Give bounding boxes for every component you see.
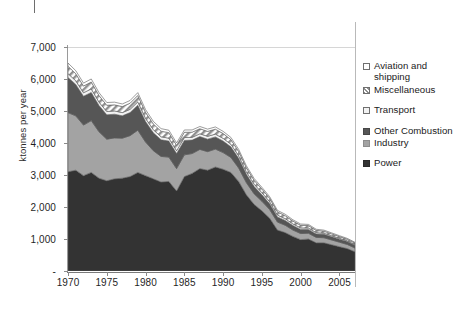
y-axis-tick-mark [64, 207, 68, 208]
x-axis-tick-label: 1985 [173, 277, 196, 288]
x-axis-tick-label: 1970 [57, 277, 80, 288]
legend-divider [355, 22, 356, 287]
gridline [68, 47, 355, 48]
x-axis-tick-mark [339, 272, 340, 276]
x-axis-tick-mark [184, 272, 185, 276]
legend-label: Power [374, 157, 401, 168]
y-axis-tick-mark [64, 111, 68, 112]
x-axis-tick-label: 1975 [95, 277, 118, 288]
x-axis-tick-label: 1980 [134, 277, 157, 288]
legend-label: Other Combustion [374, 125, 453, 136]
y-axis-tick-label: 3,000 [8, 170, 56, 181]
y-axis-tick-mark [64, 79, 68, 80]
x-axis-tick-mark [68, 272, 69, 276]
y-axis-tick-label: 4,000 [8, 138, 56, 149]
x-axis-tick-mark [146, 272, 147, 276]
y-axis-tick-mark [64, 175, 68, 176]
y-axis-tick-label: 2,000 [8, 202, 56, 213]
legend-item[interactable]: Industry [363, 137, 457, 148]
legend-swatch-miscellaneous [363, 87, 370, 94]
legend-label: Miscellaneous [374, 84, 435, 95]
y-axis-tick-label: - [8, 266, 56, 277]
legend-swatch-other [363, 128, 370, 135]
x-axis-tick-label: 2000 [289, 277, 312, 288]
legend-label: Aviation and shipping [374, 60, 457, 83]
legend-swatch-aviation [363, 63, 370, 70]
x-axis-tick-mark [107, 272, 108, 276]
y-axis-tick-label: 5,000 [8, 106, 56, 117]
legend-item[interactable]: Miscellaneous [363, 84, 457, 95]
legend-item[interactable]: Transport [363, 104, 457, 115]
legend-swatch-industry [363, 140, 370, 147]
x-axis-tick-label: 1995 [251, 277, 274, 288]
y-axis-tick-label: 7,000 [8, 42, 56, 53]
legend-item[interactable]: Aviation and shipping [363, 60, 457, 83]
x-axis-tick-label: 2005 [328, 277, 351, 288]
stacked-area-series [68, 47, 355, 271]
x-axis-tick-mark [262, 272, 263, 276]
y-axis-tick-mark [64, 143, 68, 144]
area-series-power [68, 167, 355, 271]
legend-label: Industry [374, 137, 409, 148]
legend-label: Transport [374, 104, 415, 115]
chart-legend: Aviation and shippingMiscellaneousTransp… [363, 60, 457, 170]
legend-swatch-transport [363, 107, 370, 114]
chart-screenshot: ktonnes per year -1,0002,0003,0004,0005,… [0, 0, 457, 309]
legend-swatch-power [363, 160, 370, 167]
legend-item[interactable]: Other Combustion [363, 125, 457, 136]
x-axis-tick-mark [223, 272, 224, 276]
y-axis-tick-mark [64, 239, 68, 240]
y-axis-tick-label: 6,000 [8, 74, 56, 85]
y-axis-tick-label: 1,000 [8, 234, 56, 245]
figure-caption [6, 300, 451, 309]
x-axis-tick-label: 1990 [212, 277, 235, 288]
legend-item[interactable]: Power [363, 157, 457, 168]
x-axis-tick-mark [301, 272, 302, 276]
plot-area [68, 47, 355, 271]
y-axis-tick-labels: -1,0002,0003,0004,0005,0006,0007,000 [8, 0, 56, 309]
